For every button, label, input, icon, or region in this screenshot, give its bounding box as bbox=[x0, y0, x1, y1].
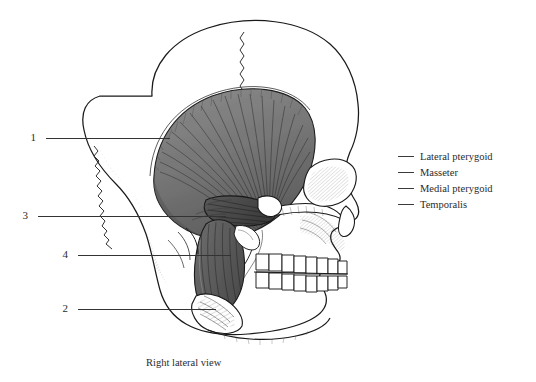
leader-line-2 bbox=[78, 309, 216, 310]
legend-item-medial-pterygoid: Medial pterygoid bbox=[398, 180, 532, 196]
legend-label-masseter: Masseter bbox=[420, 167, 458, 178]
figure-page: 1 3 4 2 Lateral pterygoid Masseter Media… bbox=[0, 0, 536, 382]
leader-line-1 bbox=[46, 138, 170, 139]
legend-item-temporalis: Temporalis bbox=[398, 196, 532, 212]
legend-label-medial-pterygoid: Medial pterygoid bbox=[420, 183, 493, 194]
legend-dash-icon bbox=[398, 204, 414, 205]
figure-caption: Right lateral view bbox=[146, 357, 221, 368]
callout-number-3: 3 bbox=[14, 210, 28, 221]
teeth-group bbox=[254, 254, 348, 292]
callout-number-2: 2 bbox=[54, 303, 68, 314]
legend-dash-icon bbox=[398, 172, 414, 173]
legend-label-temporalis: Temporalis bbox=[420, 199, 467, 210]
legend-dash-icon bbox=[398, 188, 414, 189]
callout-number-1: 1 bbox=[22, 132, 36, 143]
legend-label-lateral-pterygoid: Lateral pterygoid bbox=[420, 151, 493, 162]
legend-item-lateral-pterygoid: Lateral pterygoid bbox=[398, 148, 532, 164]
legend-item-masseter: Masseter bbox=[398, 164, 532, 180]
legend: Lateral pterygoid Masseter Medial pteryg… bbox=[398, 148, 532, 212]
leader-line-3 bbox=[38, 216, 226, 217]
callout-number-4: 4 bbox=[54, 249, 68, 260]
leader-line-4 bbox=[78, 255, 231, 256]
lower-teeth bbox=[256, 272, 347, 292]
legend-dash-icon bbox=[398, 156, 414, 157]
